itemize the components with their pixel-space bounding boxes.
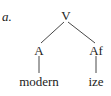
node-af: Af <box>89 44 103 57</box>
edge-v-a <box>41 22 64 43</box>
leaf-modern: modern <box>19 75 59 88</box>
edge-v-af <box>68 22 95 43</box>
leaf-ize: ize <box>88 75 103 88</box>
node-root-v: V <box>61 9 70 22</box>
node-a: A <box>34 44 43 57</box>
example-label: a. <box>2 10 12 23</box>
